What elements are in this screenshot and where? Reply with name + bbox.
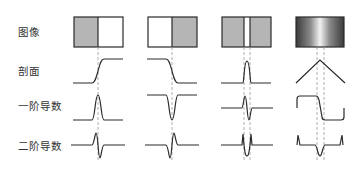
- column-step-up: [71, 17, 125, 160]
- edge-derivative-diagram: [0, 0, 358, 171]
- second-derivative-curve: [221, 134, 273, 156]
- profile-curve: [221, 61, 271, 83]
- first-derivative-curve: [297, 96, 344, 120]
- column-step-down: [145, 17, 199, 160]
- column-thin-line: [221, 17, 273, 160]
- second-derivative-curve: [297, 135, 343, 156]
- first-derivative-curve: [221, 96, 273, 120]
- profile-curve: [296, 60, 345, 83]
- image-box: [296, 17, 344, 47]
- column-ramp-roof: [296, 17, 345, 160]
